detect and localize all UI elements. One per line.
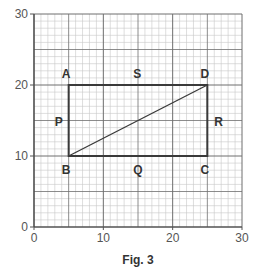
point-label-c: C xyxy=(200,163,209,177)
point-labels: ABCDPQRS xyxy=(55,67,223,177)
x-tick-label: 10 xyxy=(97,231,111,245)
point-label-q: Q xyxy=(133,163,142,177)
point-label-p: P xyxy=(55,115,63,129)
figure-caption: Fig. 3 xyxy=(122,253,154,267)
point-label-b: B xyxy=(62,163,71,177)
y-tick-label: 20 xyxy=(15,78,29,92)
y-tick-label: 0 xyxy=(21,220,28,234)
point-label-s: S xyxy=(133,67,141,81)
point-label-r: R xyxy=(214,115,223,129)
y-tick-label: 10 xyxy=(15,149,29,163)
x-tick-label: 30 xyxy=(235,231,249,245)
point-label-d: D xyxy=(200,67,209,81)
figure-3-diagram: 01020300102030 ABCDPQRS Fig. 3 xyxy=(0,0,261,275)
point-label-a: A xyxy=(62,67,71,81)
y-tick-label: 30 xyxy=(15,7,29,21)
x-tick-label: 20 xyxy=(166,231,180,245)
x-tick-label: 0 xyxy=(31,231,38,245)
